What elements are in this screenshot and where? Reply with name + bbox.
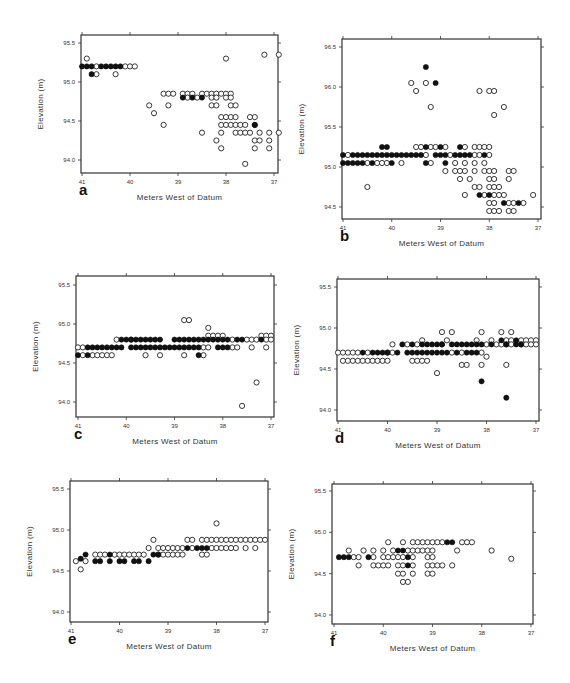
open-point <box>477 184 482 189</box>
open-point <box>487 200 492 205</box>
panel-f: 414039383794.094.595.095.5Meters West of… <box>287 481 536 653</box>
open-point <box>487 144 492 149</box>
open-point <box>390 350 395 355</box>
open-point <box>345 152 350 157</box>
filled-point <box>375 350 380 355</box>
open-point <box>143 353 148 358</box>
open-point <box>214 95 219 100</box>
open-point <box>80 345 85 350</box>
open-point <box>355 350 360 355</box>
filled-point <box>93 559 98 564</box>
x-tick-label: 38 <box>213 628 220 634</box>
open-point <box>496 208 501 213</box>
y-axis-title: Elevation (m) <box>297 103 306 154</box>
open-point <box>487 176 492 181</box>
open-point <box>239 403 244 408</box>
filled-point <box>172 345 177 350</box>
filled-point <box>360 160 365 165</box>
open-point <box>361 548 366 553</box>
filled-point <box>450 540 455 545</box>
filled-point <box>99 64 104 69</box>
open-point <box>492 208 497 213</box>
panel-letter: a <box>79 181 88 198</box>
open-point <box>400 571 405 576</box>
open-point <box>472 168 477 173</box>
open-point <box>233 545 238 550</box>
filled-point <box>384 152 389 157</box>
y-tick-label: 94.5 <box>52 568 64 574</box>
open-point <box>472 152 477 157</box>
open-point <box>371 548 376 553</box>
x-tick-label: 38 <box>483 427 490 433</box>
plot-frame <box>70 481 268 622</box>
open-point <box>264 345 269 350</box>
filled-point <box>438 144 443 149</box>
filled-point <box>177 337 182 342</box>
open-point <box>443 144 448 149</box>
filled-point <box>84 64 89 69</box>
filled-point <box>487 192 492 197</box>
open-point <box>453 168 458 173</box>
filled-point <box>384 144 389 149</box>
open-point <box>482 192 487 197</box>
filled-point <box>162 345 167 350</box>
open-point <box>190 537 195 542</box>
open-point <box>380 358 385 363</box>
x-tick-label: 40 <box>384 427 391 433</box>
open-point <box>462 160 467 165</box>
open-point <box>433 144 438 149</box>
filled-point <box>252 122 257 127</box>
open-point <box>511 200 516 205</box>
open-point <box>355 358 360 363</box>
open-point <box>425 540 430 545</box>
open-point <box>533 342 538 347</box>
x-tick-label: 37 <box>268 423 275 429</box>
open-point <box>395 555 400 560</box>
filled-point <box>148 337 153 342</box>
x-tick-label: 39 <box>429 630 436 636</box>
filled-point <box>394 152 399 157</box>
open-point <box>428 160 433 165</box>
open-point <box>83 559 88 564</box>
x-axis-title: Meters West of Datum <box>137 193 222 202</box>
open-point <box>487 208 492 213</box>
open-point <box>439 330 444 335</box>
filled-point <box>459 342 464 347</box>
y-tick-label: 94.5 <box>324 204 336 210</box>
filled-point <box>143 337 148 342</box>
filled-point <box>501 200 506 205</box>
filled-point <box>78 556 83 561</box>
open-point <box>524 342 529 347</box>
y-axis-title: Elevation (m) <box>25 526 34 577</box>
open-point <box>509 556 514 561</box>
x-tick-label: 37 <box>533 427 540 433</box>
filled-point <box>195 545 200 550</box>
filled-point <box>462 152 467 157</box>
open-point <box>356 563 361 568</box>
open-point <box>151 111 156 116</box>
panel-d: 414039383794.094.595.095.5Meters West of… <box>292 276 542 450</box>
open-point <box>420 540 425 545</box>
panel-e: 414039383794.094.595.095.5Meters West of… <box>25 478 271 651</box>
open-point <box>479 350 484 355</box>
filled-point <box>103 64 108 69</box>
filled-point <box>504 395 509 400</box>
filled-point <box>404 152 409 157</box>
y-tick-label: 94.0 <box>52 609 64 615</box>
open-point <box>477 152 482 157</box>
panel-letter: e <box>68 630 76 647</box>
open-point <box>425 555 430 560</box>
open-point <box>492 112 497 117</box>
filled-point <box>454 350 459 355</box>
filled-point <box>457 144 462 149</box>
open-point <box>375 160 380 165</box>
open-point <box>400 579 405 584</box>
open-point <box>482 160 487 165</box>
open-point <box>506 208 511 213</box>
filled-point <box>380 350 385 355</box>
filled-point <box>109 345 114 350</box>
filled-point <box>136 559 141 564</box>
plot-frame <box>81 35 278 173</box>
filled-point <box>370 160 375 165</box>
filled-point <box>196 345 201 350</box>
